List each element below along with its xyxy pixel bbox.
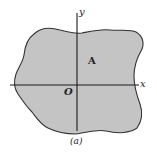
area-diagram: y x O A (a)	[0, 0, 157, 157]
figure-caption: (a)	[70, 137, 82, 146]
region-a-shape	[15, 28, 143, 134]
region-label: A	[88, 56, 96, 66]
origin-label: O	[64, 87, 73, 97]
y-axis-label: y	[79, 7, 85, 17]
diagram-canvas	[0, 0, 157, 157]
x-axis-label: x	[140, 79, 146, 89]
